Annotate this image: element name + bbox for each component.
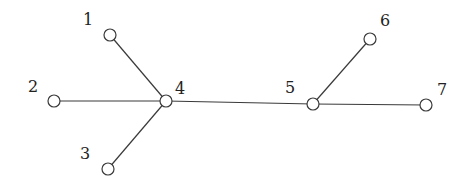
- node-3: [102, 163, 114, 175]
- node-label-3: 3: [80, 146, 90, 162]
- node-5: [307, 98, 319, 110]
- node-1: [104, 29, 116, 41]
- node-label-5: 5: [285, 80, 295, 96]
- node-2: [48, 95, 60, 107]
- edge-5-7: [313, 104, 426, 105]
- edge-3-4: [108, 101, 166, 169]
- node-label-2: 2: [28, 79, 38, 95]
- node-label-7: 7: [437, 82, 447, 98]
- node-label-6: 6: [380, 13, 390, 29]
- edges-group: [54, 35, 426, 169]
- edge-4-5: [166, 101, 313, 104]
- node-7: [420, 99, 432, 111]
- graph-canvas: [0, 0, 469, 183]
- node-label-1: 1: [83, 12, 93, 28]
- edge-1-4: [110, 35, 166, 101]
- node-6: [364, 33, 376, 45]
- edge-5-6: [313, 39, 370, 104]
- node-4: [160, 95, 172, 107]
- node-label-4: 4: [175, 81, 185, 97]
